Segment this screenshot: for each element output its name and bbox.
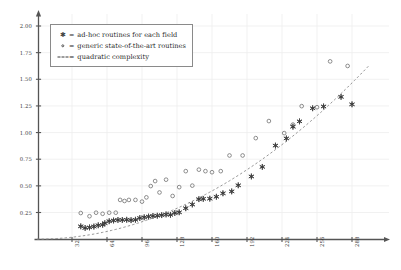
legend-row-quadratic: = quadratic complexity <box>56 51 186 62</box>
circle-marker-icon <box>56 40 69 51</box>
legend-label-quadratic: quadratic complexity <box>77 53 149 61</box>
x-tick-label: 192 <box>249 236 255 246</box>
y-tick-label: 1.75 <box>12 50 32 56</box>
y-tick-label: 0.75 <box>12 156 32 162</box>
x-tick-label: 96 <box>144 240 150 247</box>
legend-label-adhoc: ad-hoc routines for each field <box>77 31 177 39</box>
y-tick-label: 1.00 <box>12 130 32 136</box>
y-tick-label: 0.25 <box>12 210 32 216</box>
legend-equals-sign-1: = <box>69 42 77 50</box>
legend-row-generic: = generic state-of-the-art routines <box>56 40 186 51</box>
y-tick-label: 1.50 <box>12 76 32 82</box>
legend-equals-sign-2: = <box>69 53 77 61</box>
x-tick-label: 64 <box>109 240 115 247</box>
star-marker-icon: ✱ <box>56 29 69 40</box>
x-tick-label: 128 <box>179 236 185 246</box>
legend-label-generic: generic state-of-the-art routines <box>77 42 186 50</box>
x-tick-label: 160 <box>214 236 220 246</box>
x-tick-label: 224 <box>284 236 290 246</box>
series-generic-state-of-the-art <box>79 60 350 219</box>
chart-legend: ✱ = ad-hoc routines for each field = gen… <box>50 24 193 67</box>
figure: 0.250.500.751.001.251.501.752.00 3264961… <box>0 0 401 270</box>
legend-row-adhoc: ✱ = ad-hoc routines for each field <box>56 29 186 40</box>
y-tick-label: 1.25 <box>12 103 32 109</box>
dashed-line-icon <box>56 51 69 62</box>
x-tick-label: 256 <box>319 236 325 246</box>
y-tick-label: 2.00 <box>12 23 32 29</box>
legend-equals-sign-0: = <box>69 31 77 39</box>
x-tick-label: 32 <box>74 240 80 247</box>
y-tick-label: 0.50 <box>12 183 32 189</box>
x-tick-label: 288 <box>354 236 360 246</box>
quadratic-reference-curve <box>37 65 370 239</box>
series-ad-hoc-routines <box>79 94 355 230</box>
